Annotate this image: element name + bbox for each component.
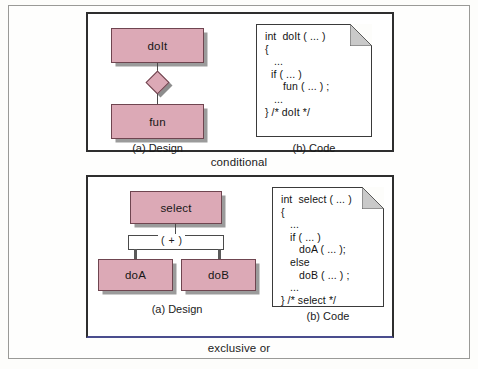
xor-code-page: int select ( ... ) { ... if ( ... ) doA … [272,187,384,307]
caption-exclusive-or: exclusive or [0,342,478,354]
exclusive-or-panel: select ( + ) doA doB (a) Design int sele… [86,175,394,338]
process-box-label: doA [125,269,146,281]
process-box-doA[interactable]: doA [98,259,173,291]
conditional-panel: doIt fun (a) Design int doIt ( ... ) { .… [86,12,394,152]
caption-conditional: conditional [0,156,478,168]
process-box-label: doB [208,269,229,281]
conditional-design-label: (a) Design [111,142,204,154]
process-box-doB[interactable]: doB [181,259,256,291]
process-box-fun[interactable]: fun [111,104,204,139]
figure-root: doIt fun (a) Design int doIt ( ... ) { .… [0,0,478,369]
conditional-code-label: (b) Code [256,142,372,154]
process-box-label: doIt [148,40,168,52]
process-box-select[interactable]: select [130,191,222,224]
conditional-code-text: int doIt ( ... ) { ... if ( ... ) fun ( … [265,30,367,118]
conditional-code-page: int doIt ( ... ) { ... if ( ... ) fun ( … [256,24,372,137]
process-box-label: select [160,202,191,214]
xor-design-label: (a) Design [98,303,256,315]
xor-code-text: int select ( ... ) { ... if ( ... ) doA … [281,193,379,306]
xor-code-label: (b) Code [272,310,384,322]
xor-plus-marker: ( + ) [158,234,185,246]
process-box-doIt[interactable]: doIt [111,28,204,63]
process-box-label: fun [149,116,166,128]
diamond-connector [145,71,171,97]
